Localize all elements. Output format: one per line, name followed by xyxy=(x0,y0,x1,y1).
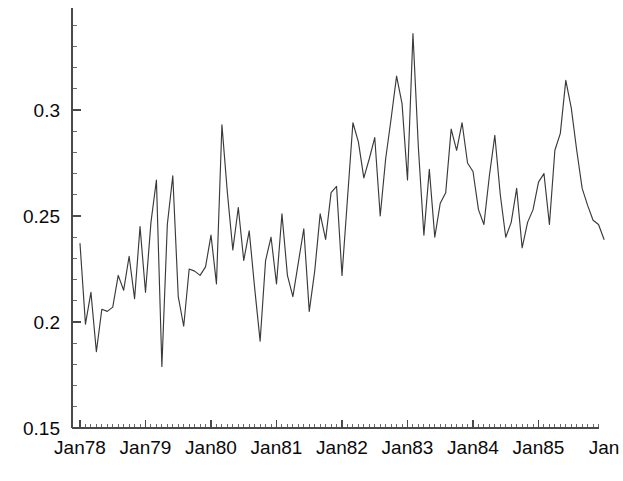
x-axis-tick-label: Jan84 xyxy=(447,437,499,458)
data-series-line xyxy=(80,34,604,367)
y-axis-tick-label: 0.3 xyxy=(34,100,60,121)
chart-container: 0.30.250.20.15 Jan78Jan79Jan80Jan81Jan82… xyxy=(0,0,623,481)
line-chart-plot: 0.30.250.20.15 Jan78Jan79Jan80Jan81Jan82… xyxy=(0,0,623,481)
y-axis-major-ticks xyxy=(72,110,81,428)
y-axis-tick-label: 0.25 xyxy=(23,206,60,227)
x-axis-tick-label: Jan78 xyxy=(54,437,106,458)
x-axis-tick-labels: Jan78Jan79Jan80Jan81Jan82Jan83Jan84Jan85… xyxy=(54,437,619,458)
x-axis-tick-label: Jan80 xyxy=(185,437,237,458)
x-axis-tick-label: Jan81 xyxy=(251,437,303,458)
x-axis-tick-label: Jan85 xyxy=(513,437,565,458)
y-axis-tick-labels: 0.30.250.20.15 xyxy=(23,100,60,439)
y-axis-tick-label: 0.15 xyxy=(23,418,60,439)
x-axis-tick-label: Jan79 xyxy=(120,437,172,458)
x-axis-tick-label: Jan xyxy=(589,437,620,458)
x-axis-tick-label: Jan82 xyxy=(316,437,368,458)
x-axis-tick-label: Jan83 xyxy=(382,437,434,458)
y-axis-tick-label: 0.2 xyxy=(34,312,60,333)
